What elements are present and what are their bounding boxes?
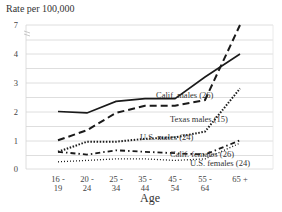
x-tick-label: 65 + (232, 174, 248, 184)
series-label: Texas males (15) (170, 114, 228, 124)
series-label: U.S. males (24) (140, 132, 194, 142)
x-tick-label: 54 (171, 183, 180, 193)
y-tick-label: 0 (14, 164, 18, 174)
gridlines (24, 25, 273, 169)
y-tick-label: 1 (14, 136, 18, 146)
y-tick-label: 7 (14, 20, 18, 30)
x-tick-label: 44 (141, 183, 150, 193)
y-tick-label: 4 (14, 49, 19, 59)
series-label: Calif. males (26) (156, 90, 214, 100)
axis-break-icon (24, 31, 30, 36)
line-chart: 012347 16 -1920 -2425 -3435 -4445 -5455 … (0, 0, 282, 212)
series-label: U.S. females (24) (190, 158, 250, 168)
x-tick-label: 34 (112, 183, 121, 193)
y-axis-ticks: 012347 (14, 20, 19, 174)
y-tick-label: 2 (14, 107, 18, 117)
x-tick-label: 64 (201, 183, 210, 193)
y-tick-label: 3 (14, 78, 18, 88)
series-line-0 (58, 54, 240, 113)
x-tick-label: 24 (83, 183, 92, 193)
x-axis-ticks: 16 -1920 -2425 -3435 -4445 -5455 -6465 + (51, 174, 248, 193)
x-tick-label: 19 (54, 183, 63, 193)
